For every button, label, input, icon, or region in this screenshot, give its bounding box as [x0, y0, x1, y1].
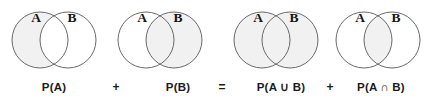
- set-a-letter: A: [253, 10, 263, 25]
- set-b-letter: B: [67, 10, 76, 25]
- venn-diagram-p-a: A B: [4, 0, 104, 74]
- caption-p-b: P(B): [136, 74, 220, 100]
- operator-plus-first: +: [104, 74, 128, 100]
- set-a-letter: A: [355, 10, 365, 25]
- set-a-letter: A: [31, 10, 41, 25]
- caption-p-a: P(A): [12, 74, 96, 100]
- set-b-letter: B: [289, 10, 298, 25]
- equation-label-row: P(A) + P(B) = P(A ∪ B) + P(A ∩ B): [0, 74, 430, 100]
- venn-diagram-p-a-intersect-b: A B: [328, 0, 428, 74]
- set-a-letter: A: [137, 10, 147, 25]
- operator-equals: =: [210, 74, 234, 100]
- venn-diagram-row: A B A B A B: [0, 0, 430, 74]
- venn-diagram-p-b: A B: [110, 0, 210, 74]
- set-b-letter: B: [173, 10, 182, 25]
- caption-p-a-intersect-b: P(A ∩ B): [336, 74, 426, 100]
- set-b-letter: B: [391, 10, 400, 25]
- caption-p-a-union-b: P(A ∪ B): [236, 74, 326, 100]
- venn-diagram-figure: A B A B A B: [0, 0, 430, 100]
- venn-diagram-p-a-union-b: A B: [226, 0, 326, 74]
